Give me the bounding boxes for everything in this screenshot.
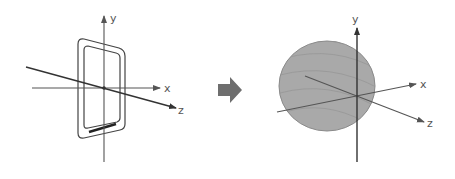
x-axis-label: x [164, 82, 171, 95]
diagram-canvas: y x z z x y [0, 0, 455, 179]
right-panel: z x y [277, 13, 433, 162]
z-axis-label: z [427, 117, 433, 130]
x-axis-label: x [420, 78, 427, 91]
y-axis-label: y [352, 13, 359, 26]
y-axis-label: y [110, 12, 117, 25]
z-axis-label: z [178, 104, 184, 117]
sphere-icon [279, 41, 378, 131]
right-arrow-icon [218, 77, 242, 103]
left-panel: y x z [26, 12, 184, 162]
